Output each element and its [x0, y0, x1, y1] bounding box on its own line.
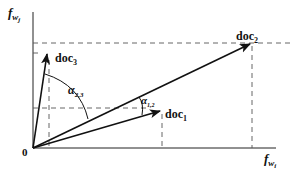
alpha-1-2-label: α1,2 [141, 94, 155, 108]
doc1-label: doc1 [165, 107, 187, 123]
vector-space-diagram: fwj fwi 0 doc2 doc3 doc1 α2,3 α1,2 [0, 0, 295, 173]
x-axis-label: fwi [264, 151, 276, 170]
origin-label: 0 [22, 146, 28, 158]
alpha-2-3-label: α2,3 [68, 83, 84, 99]
doc2-label: doc2 [236, 29, 258, 45]
doc1-vector [33, 111, 160, 148]
doc3-label: doc3 [55, 51, 77, 67]
doc3-vector [33, 54, 47, 148]
y-axis-label: fwj [8, 5, 20, 24]
